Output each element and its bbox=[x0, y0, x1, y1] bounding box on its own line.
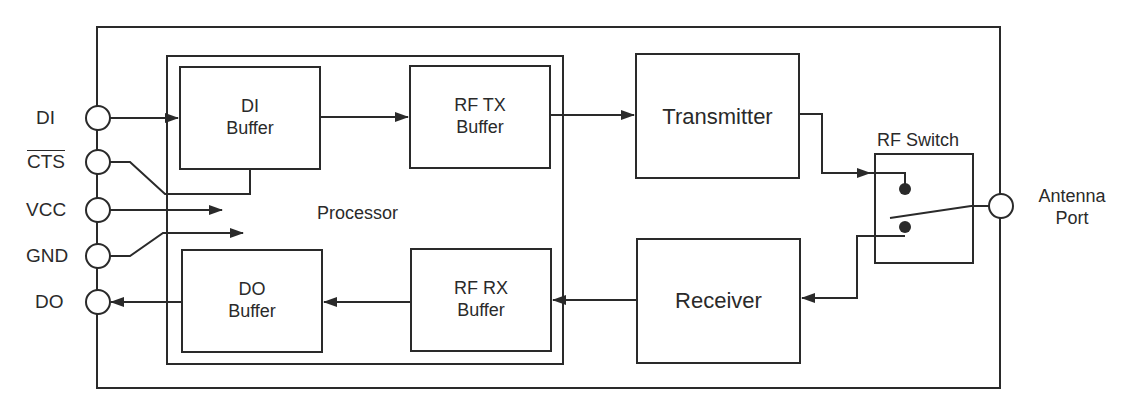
rf-rx-buffer-line1: RF RX bbox=[454, 278, 508, 300]
transmitter-label: Transmitter bbox=[662, 104, 772, 130]
rf-rx-buffer-line2: Buffer bbox=[454, 300, 508, 322]
pin-gnd-icon bbox=[86, 244, 110, 268]
rf-tx-buffer-line1: RF TX bbox=[454, 95, 506, 117]
diagram-canvas bbox=[0, 0, 1134, 408]
pin-label-cts: CTS bbox=[27, 151, 65, 173]
do-buffer-line2: Buffer bbox=[228, 301, 276, 323]
switch-contact-rx-icon bbox=[899, 221, 911, 233]
processor-label: Processor bbox=[317, 203, 398, 224]
pin-label-di: DI bbox=[36, 107, 55, 129]
pin-di-icon bbox=[86, 106, 110, 130]
rf-switch-label: RF Switch bbox=[877, 130, 959, 151]
pin-label-vcc: VCC bbox=[26, 199, 66, 221]
switch-contact-tx-icon bbox=[899, 183, 911, 195]
di-buffer-line2: Buffer bbox=[226, 118, 274, 140]
pin-cts-icon bbox=[86, 150, 110, 174]
pin-do-icon bbox=[86, 290, 110, 314]
pin-vcc-icon bbox=[86, 198, 110, 222]
pin-label-gnd: GND bbox=[26, 245, 68, 267]
antenna-line1: Antenna bbox=[1038, 186, 1105, 208]
rf-rx-buffer: RF RXBuffer bbox=[411, 249, 551, 351]
di-buffer-line1: DI bbox=[226, 96, 274, 118]
do-buffer-line1: DO bbox=[228, 279, 276, 301]
antenna-line2: Port bbox=[1038, 208, 1105, 230]
di-buffer: DIBuffer bbox=[180, 67, 320, 169]
transmitter-block: Transmitter bbox=[636, 54, 799, 178]
antenna-port-label: AntennaPort bbox=[1022, 185, 1122, 231]
rf-tx-buffer: RF TXBuffer bbox=[410, 66, 550, 168]
receiver-block: Receiver bbox=[637, 239, 800, 363]
do-buffer: DOBuffer bbox=[182, 250, 322, 352]
antenna-port-icon bbox=[989, 194, 1013, 218]
pin-label-do: DO bbox=[35, 291, 64, 313]
receiver-label: Receiver bbox=[675, 288, 762, 314]
rf-tx-buffer-line2: Buffer bbox=[454, 117, 506, 139]
